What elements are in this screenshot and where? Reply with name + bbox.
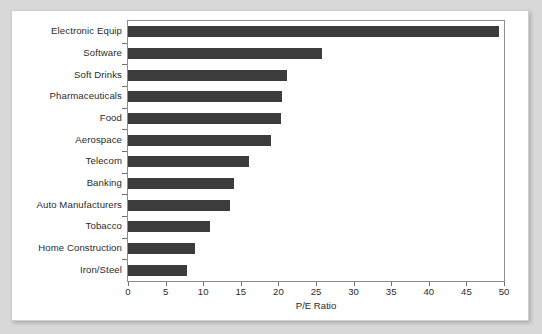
y-axis-tick (122, 216, 127, 217)
x-axis-tick-label: 50 (489, 286, 519, 297)
category-label: Soft Drinks (14, 69, 122, 80)
x-axis-tick-label: 25 (301, 286, 331, 297)
bar (128, 113, 281, 124)
category-label: Telecom (14, 155, 122, 166)
bar (128, 178, 234, 189)
x-axis-tick-label: 35 (376, 286, 406, 297)
category-label: Home Construction (14, 242, 122, 253)
x-axis-tick-label: 15 (226, 286, 256, 297)
y-axis-tick (122, 151, 127, 152)
bar (128, 91, 282, 102)
category-axis-labels: Electronic EquipSoftwareSoft DrinksPharm… (14, 20, 122, 282)
category-label: Tobacco (14, 220, 122, 231)
bar-series (128, 21, 504, 281)
y-axis-tick (122, 173, 127, 174)
bar (128, 26, 499, 37)
y-axis-tick (122, 108, 127, 109)
bar (128, 48, 322, 59)
x-axis-tick-label: 0 (113, 286, 143, 297)
category-label: Aerospace (14, 134, 122, 145)
category-label: Software (14, 47, 122, 58)
bar (128, 221, 210, 232)
x-axis-tick-label: 45 (451, 286, 481, 297)
bar (128, 70, 287, 81)
x-axis-tick-label: 20 (263, 286, 293, 297)
bar (128, 135, 271, 146)
bar (128, 243, 195, 254)
category-label: Iron/Steel (14, 264, 122, 275)
y-axis-tick (122, 194, 127, 195)
y-axis-tick (122, 43, 127, 44)
x-axis-tick-label: 10 (188, 286, 218, 297)
category-label: Banking (14, 177, 122, 188)
x-axis-tick-label: 5 (151, 286, 181, 297)
y-axis-tick (122, 129, 127, 130)
bar (128, 156, 249, 167)
bar (128, 265, 187, 276)
x-axis-title: P/E Ratio (127, 300, 505, 311)
x-axis-tick-label: 40 (414, 286, 444, 297)
category-label: Pharmaceuticals (14, 90, 122, 101)
category-label: Food (14, 112, 122, 123)
chart-figure: Electronic EquipSoftwareSoft DrinksPharm… (0, 0, 542, 334)
category-label: Auto Manufacturers (14, 199, 122, 210)
bar (128, 200, 230, 211)
x-axis-tick-label: 30 (339, 286, 369, 297)
y-axis-tick (122, 238, 127, 239)
y-axis-tick (122, 259, 127, 260)
category-label: Electronic Equip (14, 25, 122, 36)
y-axis-tick (122, 86, 127, 87)
y-axis-tick (122, 64, 127, 65)
